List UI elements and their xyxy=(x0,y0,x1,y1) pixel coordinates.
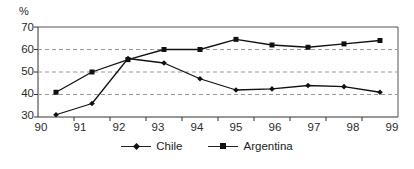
diamond-marker-icon xyxy=(121,141,151,151)
chart-container: % 70 60 50 40 30 90 91 92 93 94 95 96 97… xyxy=(0,0,414,169)
chart-legend: Chile Argentina xyxy=(0,140,414,152)
legend-label-chile: Chile xyxy=(156,140,182,152)
legend-item-argentina[interactable]: Argentina xyxy=(208,140,292,152)
square-marker-icon xyxy=(208,141,238,151)
legend-label-argentina: Argentina xyxy=(243,140,292,152)
legend-item-chile[interactable]: Chile xyxy=(121,140,182,152)
